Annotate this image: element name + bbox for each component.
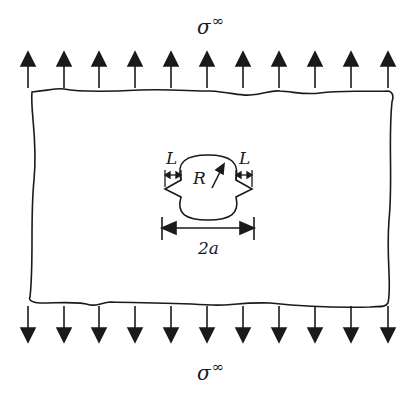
radius-label: R xyxy=(193,170,206,187)
arrow-up-icon xyxy=(381,52,395,88)
arrow-down-icon xyxy=(272,306,286,342)
left-crack-length-label: L xyxy=(166,150,177,167)
arrow-up-icon xyxy=(272,52,286,88)
top-stress-arrows xyxy=(21,52,395,88)
arrow-down-icon xyxy=(92,306,106,342)
top-stress-label: σ∞ xyxy=(197,14,224,37)
arrow-up-icon xyxy=(164,52,178,88)
width-label: 2a xyxy=(198,240,219,257)
sigma-symbol: σ xyxy=(197,361,211,385)
arrow-up-icon xyxy=(344,52,358,88)
arrow-down-icon xyxy=(200,306,214,342)
sigma-symbol: σ xyxy=(197,15,211,39)
bottom-stress-label: σ∞ xyxy=(197,360,224,383)
arrow-down-icon xyxy=(128,306,142,342)
arrow-up-icon xyxy=(308,52,322,88)
arrow-up-icon xyxy=(128,52,142,88)
plate-outline xyxy=(30,89,393,308)
arrow-down-icon xyxy=(381,306,395,342)
arrow-down-icon xyxy=(57,306,71,342)
arrow-down-icon xyxy=(308,306,322,342)
arrow-down-icon xyxy=(164,306,178,342)
infinity-superscript: ∞ xyxy=(212,12,225,30)
right-crack-length-label: L xyxy=(239,150,250,167)
arrow-up-icon xyxy=(57,52,71,88)
radius-arrow xyxy=(212,164,224,188)
arrow-down-icon xyxy=(236,306,250,342)
plate-diagram xyxy=(0,0,410,395)
arrow-up-icon xyxy=(236,52,250,88)
arrow-up-icon xyxy=(92,52,106,88)
bottom-stress-arrows xyxy=(21,306,395,342)
arrow-down-icon xyxy=(344,306,358,342)
arrow-down-icon xyxy=(21,306,35,342)
arrow-up-icon xyxy=(21,52,35,88)
infinity-superscript: ∞ xyxy=(212,358,225,376)
arrow-up-icon xyxy=(200,52,214,88)
